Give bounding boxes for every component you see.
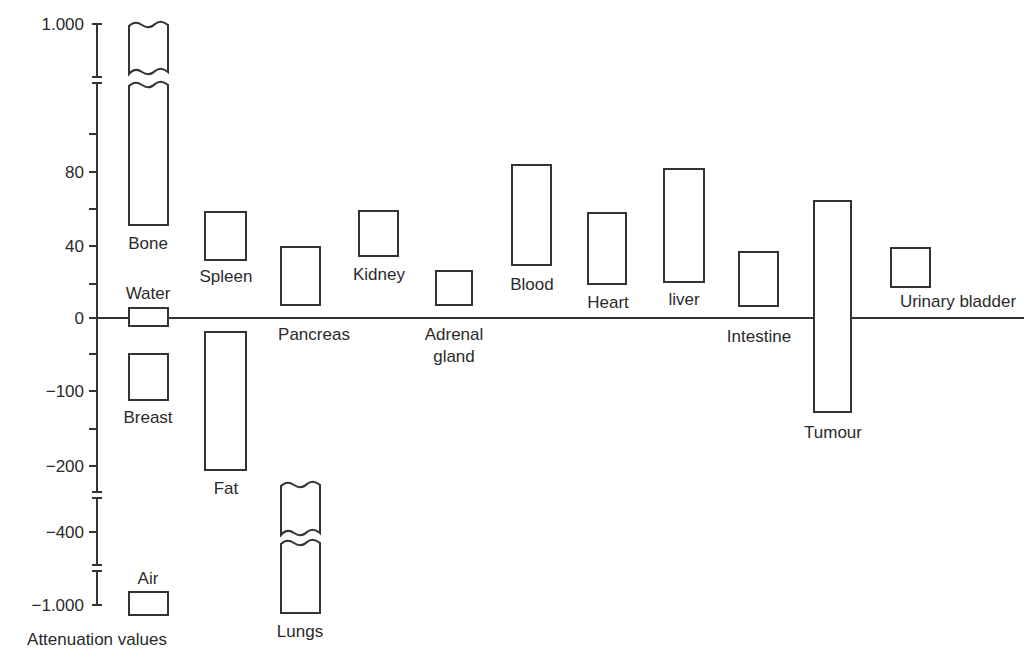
liver-box xyxy=(664,169,704,282)
liver-label: liver xyxy=(668,290,700,309)
kidney-box xyxy=(359,211,398,256)
heart-label: Heart xyxy=(587,293,629,312)
blood-box xyxy=(512,165,551,265)
bone-box-lower xyxy=(129,82,168,225)
breast-label: Breast xyxy=(123,408,172,427)
fat-label: Fat xyxy=(214,479,239,498)
pancreas-box xyxy=(281,247,320,305)
urinary-bladder-box xyxy=(891,248,930,287)
pancreas-label: Pancreas xyxy=(278,325,350,344)
y-tick-label: 40 xyxy=(65,237,84,256)
y-tick-label: −100 xyxy=(46,382,84,401)
kidney-label: Kidney xyxy=(353,265,405,284)
range-boxes xyxy=(129,165,930,615)
water-box xyxy=(129,308,168,326)
y-tick-label: 0 xyxy=(75,309,84,328)
spleen-box xyxy=(205,212,246,260)
adrenal-gland-line2-label: gland xyxy=(433,347,475,366)
tumour-box xyxy=(814,201,851,412)
y-axis: 1.00080400−100−200−400−1.000 xyxy=(32,15,102,615)
air-box xyxy=(129,592,168,615)
lungs-box-lower xyxy=(281,540,320,613)
y-axis-title: Attenuation values xyxy=(27,630,167,649)
bone-box-upper xyxy=(129,22,168,75)
adrenal-gland-line1-label: Adrenal xyxy=(425,325,484,344)
water-label: Water xyxy=(126,284,171,303)
attenuation-chart: 1.00080400−100−200−400−1.000 BoneWaterBr… xyxy=(0,0,1034,666)
spleen-label: Spleen xyxy=(200,267,253,286)
blood-label: Blood xyxy=(510,275,553,294)
y-tick-label: 1.000 xyxy=(41,15,84,34)
y-tick-label: −400 xyxy=(46,523,84,542)
intestine-box xyxy=(739,252,778,306)
air-label: Air xyxy=(138,569,159,588)
lungs-label: Lungs xyxy=(277,622,323,641)
category-labels: BoneWaterBreastAirSpleenFatPancreasLungs… xyxy=(123,234,1016,641)
urinary-bladder-label: Urinary bladder xyxy=(900,292,1017,311)
intestine-label: Intestine xyxy=(727,327,791,346)
tumour-label: Tumour xyxy=(804,423,862,442)
adrenal-gland-box xyxy=(436,271,472,305)
fat-box xyxy=(205,332,246,470)
bone-label: Bone xyxy=(128,234,168,253)
y-tick-label: −200 xyxy=(46,457,84,476)
y-tick-label: −1.000 xyxy=(32,596,84,615)
y-tick-label: 80 xyxy=(65,163,84,182)
breast-box xyxy=(129,354,168,400)
heart-box xyxy=(588,213,626,284)
lungs-box-upper xyxy=(281,482,320,536)
